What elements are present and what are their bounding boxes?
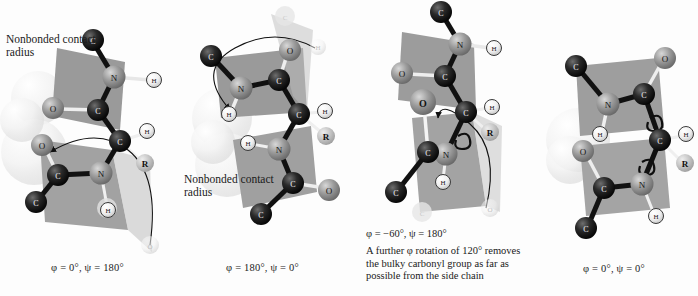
atom-hydrogen-lower: H xyxy=(649,209,664,224)
nonbonded-contact-radius-label-1: Nonbonded contact radius xyxy=(6,33,98,59)
svg-text:O: O xyxy=(580,147,587,157)
atom-c-alpha-center: C xyxy=(455,101,477,123)
svg-text:N: N xyxy=(111,73,118,83)
panel-2-molecule: H C C N H C xyxy=(175,0,350,296)
svg-text:C: C xyxy=(258,211,263,220)
atom-nitrogen-upper: N xyxy=(449,33,472,56)
atom-c-alpha-bottom: C xyxy=(575,217,597,239)
atom-carbon-lower: C xyxy=(417,141,439,163)
panel-phi-60-psi180: O C C N H C xyxy=(350,0,530,296)
svg-text:H: H xyxy=(683,131,688,139)
svg-text:C: C xyxy=(463,109,468,118)
svg-text:C: C xyxy=(393,189,398,198)
svg-text:C: C xyxy=(573,63,578,72)
atom-hydrogen-upper: H xyxy=(147,73,162,88)
atom-nitrogen-lower: N xyxy=(90,162,113,185)
svg-text:C: C xyxy=(442,73,447,82)
atom-nitrogen-upper: N xyxy=(597,93,620,116)
svg-text:O: O xyxy=(147,243,152,251)
svg-text:H: H xyxy=(322,108,327,116)
svg-text:H: H xyxy=(653,213,658,221)
svg-text:N: N xyxy=(639,180,646,190)
svg-text:O: O xyxy=(399,69,406,79)
atom-c-alpha-bottom: C xyxy=(385,181,407,203)
atom-nitrogen-upper: N xyxy=(230,77,253,100)
svg-text:H: H xyxy=(440,179,445,187)
svg-text:N: N xyxy=(605,100,612,110)
atom-hydrogen-upper: H xyxy=(593,127,608,142)
atom-hydrogen-lower: H xyxy=(241,136,256,151)
svg-text:O: O xyxy=(419,98,427,109)
svg-text:N: N xyxy=(238,84,245,94)
atom-oxygen-lower: O xyxy=(572,140,594,162)
svg-text:O: O xyxy=(487,206,492,214)
panel-4-molecule: C N H C O xyxy=(530,0,698,296)
svg-text:C: C xyxy=(95,107,100,116)
atom-c-alpha-top: C xyxy=(200,45,222,67)
atom-carbon-upper: C xyxy=(87,99,109,121)
svg-text:O: O xyxy=(326,186,333,196)
atom-hydrogen-center: H xyxy=(485,100,500,115)
svg-text:C: C xyxy=(583,225,588,234)
atom-r-group: R xyxy=(317,127,335,145)
atom-c-alpha-center: C xyxy=(649,129,671,151)
svg-text:C: C xyxy=(296,111,301,120)
svg-text:C: C xyxy=(55,172,60,181)
svg-text:C: C xyxy=(657,137,662,146)
panel-1-caption: φ = 0°, ψ = 180° xyxy=(0,262,175,273)
svg-text:O: O xyxy=(662,54,669,64)
panel-phi180-psi0: H C C N H C xyxy=(175,0,350,296)
svg-text:H: H xyxy=(144,128,149,136)
svg-text:C: C xyxy=(276,77,281,86)
atom-carbon-upper: C xyxy=(633,83,655,105)
svg-text:O: O xyxy=(287,46,294,56)
svg-text:H: H xyxy=(315,44,320,52)
atom-carbon-upper: C xyxy=(268,69,290,91)
svg-text:C: C xyxy=(420,210,425,218)
panel-phi0-psi0: C N H C O xyxy=(530,0,698,296)
atom-oxygen-upper: O xyxy=(42,97,64,119)
svg-text:O: O xyxy=(39,141,46,151)
svg-text:H: H xyxy=(226,111,231,119)
atom-c-alpha-top: C xyxy=(565,55,587,77)
svg-text:C: C xyxy=(208,53,213,62)
svg-text:H: H xyxy=(491,45,496,53)
atom-r-group: R xyxy=(136,154,154,172)
svg-text:H: H xyxy=(105,207,110,215)
atom-oxygen-lower: O xyxy=(31,134,53,156)
svg-text:H: H xyxy=(245,140,250,148)
svg-text:H: H xyxy=(597,131,602,139)
atom-c-alpha-bottom: C xyxy=(25,191,47,213)
peptide-plane-upper xyxy=(52,48,125,130)
svg-text:C: C xyxy=(33,199,38,208)
svg-text:R: R xyxy=(487,128,494,138)
atom-c-alpha-top: C xyxy=(430,1,452,23)
svg-text:N: N xyxy=(98,169,105,179)
atom-hydrogen-center: H xyxy=(679,127,694,142)
svg-text:R: R xyxy=(323,132,330,142)
panel-3-angle: φ = −60°, ψ = 180° xyxy=(366,228,530,240)
svg-text:C: C xyxy=(438,9,443,18)
figure-peptide-conformations: O C C N H C xyxy=(0,0,698,296)
svg-text:R: R xyxy=(682,159,689,169)
svg-text:C: C xyxy=(641,91,646,100)
panel-phi0-psi180: O C C N H C xyxy=(0,0,175,296)
atom-nitrogen-lower: N xyxy=(268,138,291,161)
atom-hydrogen-center: H xyxy=(318,104,333,119)
panel-3-caption: φ = −60°, ψ = 180° A further φ rotation … xyxy=(366,228,530,283)
atom-r-group: R xyxy=(676,154,694,172)
svg-text:O: O xyxy=(50,104,57,114)
contact-sphere xyxy=(191,120,235,164)
atom-r-group: R xyxy=(481,123,499,141)
svg-text:R: R xyxy=(142,159,149,169)
atom-carbon-lower: C xyxy=(593,177,615,199)
atom-oxygen-lower: O xyxy=(410,89,436,115)
atom-oxygen-lower: O xyxy=(318,179,340,201)
atom-nitrogen-lower: N xyxy=(631,173,654,196)
svg-text:C: C xyxy=(290,180,295,189)
panel-4-caption: φ = 0°, ψ = 0° xyxy=(530,263,698,274)
atom-oxygen-upper: O xyxy=(654,47,676,69)
atom-c-alpha-bottom: C xyxy=(250,203,272,225)
atom-carbon-upper: C xyxy=(434,65,456,87)
panel-3-description: A further φ rotation of 120° removes the… xyxy=(366,245,520,281)
